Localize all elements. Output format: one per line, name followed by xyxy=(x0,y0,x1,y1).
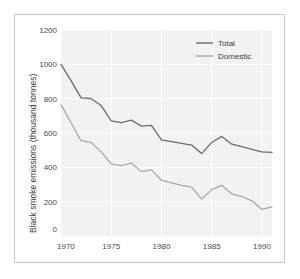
x-tick-label: 1985 xyxy=(203,242,221,251)
x-tick-label: 1980 xyxy=(153,242,171,251)
y-axis-title: Black smoke emissions (thousand tonnes) xyxy=(28,74,38,233)
y-tick-label: 1200 xyxy=(39,26,57,35)
y-tick-label: 200 xyxy=(44,198,58,207)
line-chart: 020040060080010001200 197019751980198519… xyxy=(0,0,300,279)
x-axis-tick-labels: 19701975198019851990 xyxy=(57,242,271,251)
legend-label-domestic: Domestic xyxy=(218,52,251,61)
y-tick-label: 800 xyxy=(44,95,58,104)
y-tick-label: 600 xyxy=(44,129,58,138)
x-tick-label: 1990 xyxy=(253,242,271,251)
x-tick-label: 1970 xyxy=(57,242,75,251)
y-tick-label: 0 xyxy=(53,225,58,234)
legend-label-total: Total xyxy=(218,39,235,48)
x-tick-label: 1975 xyxy=(102,242,120,251)
figure: 020040060080010001200 197019751980198519… xyxy=(0,0,300,279)
y-axis-title-text: Black smoke emissions (thousand tonnes) xyxy=(28,74,38,233)
y-tick-label: 400 xyxy=(44,163,58,172)
y-axis-tick-labels: 020040060080010001200 xyxy=(39,26,57,234)
y-tick-label: 1000 xyxy=(39,60,57,69)
